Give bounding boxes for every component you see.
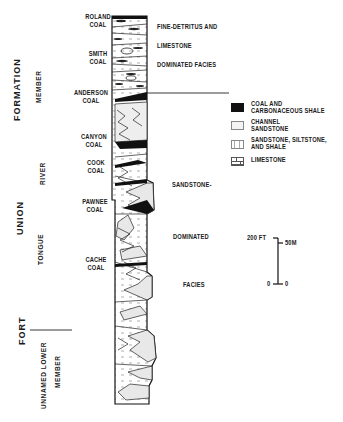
coal-sub: COAL	[82, 264, 110, 272]
facies-upper-line2: LIMESTONE	[157, 42, 192, 50]
coal-sub: COAL	[83, 58, 113, 66]
member-label-unnamed-lower: UNNAMED LOWER	[40, 342, 47, 409]
facies-upper-line3: DOMINATED FACIES	[157, 61, 216, 69]
coal-name: CACHE	[82, 256, 110, 264]
coal-label-anderson: ANDERSON COAL	[72, 89, 110, 105]
legend-swatch-coal	[231, 103, 244, 112]
member-label-member-lower: MEMBER	[54, 356, 61, 389]
formation-label-union: UNION	[15, 201, 25, 235]
legend-label-sss-2: AND SHALE	[251, 143, 286, 151]
legend-label-limestone: LIMESTONE	[251, 156, 286, 164]
coal-name: PAWNEE	[79, 198, 112, 206]
coal-name: COOK	[82, 159, 110, 167]
scale-label-0-left: 0	[267, 280, 270, 288]
coal-label-roland: ROLAND COAL	[82, 13, 115, 29]
coal-label-pawnee: PAWNEE COAL	[79, 198, 112, 214]
legend-label-coal-2: CARBONACEOUS SHALE	[251, 107, 325, 115]
formation-label-formation: FORMATION	[12, 58, 22, 121]
member-label-member-upper: MEMBER	[35, 71, 42, 104]
coal-label-cache: CACHE COAL	[82, 256, 110, 272]
scale-label-0-right: 0	[285, 280, 288, 288]
legend-swatch-sandstone-siltstone-shale	[231, 140, 244, 149]
facies-lower-line2: DOMINATED	[173, 233, 209, 241]
legend-swatch-limestone	[231, 157, 244, 166]
scale-label-50m: 50M	[285, 239, 297, 247]
coal-sub: COAL	[79, 206, 112, 214]
coal-name: SMITH	[83, 50, 113, 58]
facies-upper-line1: FINE-DETRITUS AND	[157, 23, 217, 31]
coal-sub: COAL	[72, 97, 110, 105]
coal-sub: COAL	[78, 141, 111, 149]
facies-lower-line3: FACIES	[183, 281, 205, 289]
formation-label-fort: FORT	[17, 317, 27, 346]
coal-label-canyon: CANYON COAL	[78, 133, 111, 149]
legend-label-channel-2: SANDSTONE	[251, 125, 288, 133]
coal-sub: COAL	[82, 167, 110, 175]
coal-label-smith: SMITH COAL	[83, 50, 113, 66]
coal-label-cook: COOK COAL	[82, 159, 110, 175]
member-label-tongue: TONGUE	[37, 234, 44, 265]
legend-swatch-channel-sandstone	[231, 121, 244, 130]
coal-name: ROLAND	[82, 13, 115, 21]
column-body	[112, 16, 156, 404]
scale-bar	[273, 238, 283, 284]
facies-lower-line1: SANDSTONE-	[172, 181, 211, 189]
scale-label-200ft: 200 FT	[247, 234, 266, 242]
member-label-river: RIVER	[39, 162, 46, 185]
coal-name: ANDERSON	[72, 89, 110, 97]
coal-sub: COAL	[82, 21, 115, 29]
coal-name: CANYON	[78, 133, 111, 141]
